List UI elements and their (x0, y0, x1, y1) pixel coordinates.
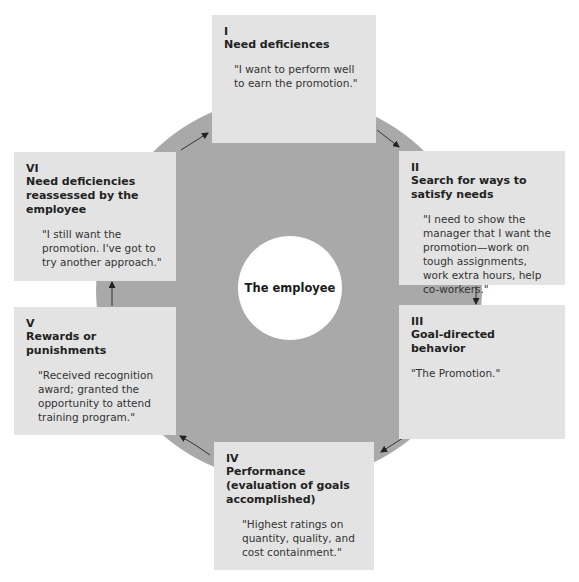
stage-quote: "Received recognition award; granted the… (26, 368, 164, 424)
stage-quote: "The Promotion." (411, 366, 553, 380)
stage-title: Goal-directed behavior (411, 328, 553, 356)
stage-number: II (411, 161, 553, 174)
stage-title: Need deficiences (224, 38, 364, 52)
stage-number: VI (26, 162, 164, 175)
arrow-i-to-ii (377, 130, 399, 147)
stage-number: V (26, 317, 164, 330)
stage-number: IV (226, 452, 362, 465)
stage-number: I (224, 25, 364, 38)
arrow-iv-to-v (180, 436, 210, 455)
stage-title: Rewards or punishments (26, 330, 164, 358)
stage-quote: "Highest ratings on quantity, quality, a… (226, 517, 362, 559)
stage-box-ii: II Search for ways to satisfy needs "I n… (399, 151, 565, 285)
stage-title: Need deficiencies reassessed by the empl… (26, 175, 164, 217)
stage-box-iii: III Goal-directed behavior "The Promotio… (399, 305, 565, 439)
stage-box-iv: IV Performance (evaluation of goals acco… (214, 442, 374, 570)
stage-quote: "I need to show the manager that I want … (411, 212, 553, 296)
stage-number: III (411, 315, 553, 328)
stage-title: Performance (evaluation of goals accompl… (226, 465, 362, 507)
stage-quote: "I still want the promotion. I've got to… (26, 227, 164, 269)
arrow-vi-to-i (181, 133, 208, 150)
stage-box-v: V Rewards or punishments "Received recog… (14, 307, 176, 435)
stage-title: Search for ways to satisfy needs (411, 174, 553, 202)
stage-box-vi: VI Need deficiencies reassessed by the e… (14, 152, 176, 281)
stage-quote: "I want to perform well to earn the prom… (224, 62, 364, 90)
stage-box-i: I Need deficiences "I want to perform we… (212, 15, 376, 143)
